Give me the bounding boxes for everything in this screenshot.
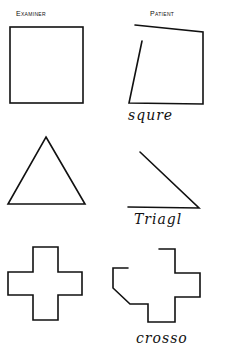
patient-label-square: squre xyxy=(128,107,173,123)
patient-label-triangle: Triagl xyxy=(134,211,182,227)
drawings-canvas xyxy=(0,0,228,350)
patient-cross-drawing xyxy=(113,249,200,322)
patient-label-cross: crosso xyxy=(136,330,188,346)
examiner-triangle-drawing xyxy=(8,137,85,204)
examiner-square-drawing xyxy=(10,27,83,103)
patient-square-drawing xyxy=(129,25,203,104)
examiner-cross-drawing xyxy=(8,247,82,320)
patient-triangle-drawing xyxy=(128,152,199,208)
